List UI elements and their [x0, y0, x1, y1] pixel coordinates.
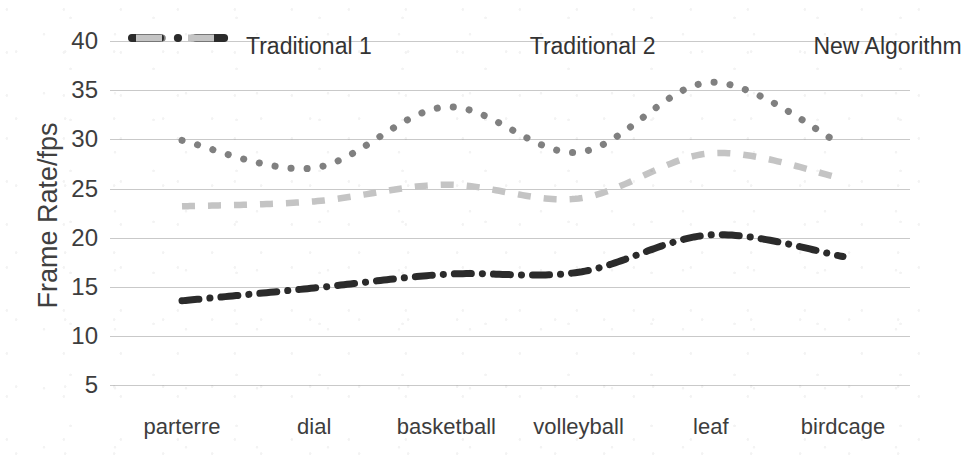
y-tick-10: 10 [36, 324, 98, 348]
series-line-new-algorithm [182, 153, 843, 206]
x-tick-volleyball: volleyball [533, 414, 624, 440]
y-tick-35: 35 [36, 78, 98, 102]
chart-legend: Traditional 1Traditional 2New Algorithm [130, 33, 965, 60]
legend-label: Traditional 2 [530, 33, 656, 60]
x-tick-dial: dial [297, 414, 331, 440]
y-axis-tick-labels: 403530252015105 [36, 0, 98, 469]
x-axis-tick-labels: parterredialbasketballvolleyballleafbird… [110, 414, 910, 454]
dotted-swatch [130, 43, 234, 50]
legend-item-new-algorithm: New Algorithm [697, 33, 965, 60]
y-tick-40: 40 [36, 29, 98, 53]
x-tick-parterre: parterre [143, 414, 220, 440]
dashed-swatch [697, 43, 801, 50]
series-line-traditional-2 [182, 235, 843, 301]
legend-label: Traditional 1 [246, 33, 372, 60]
y-tick-30: 30 [36, 127, 98, 151]
dash-dot-swatch [414, 43, 518, 50]
x-tick-leaf: leaf [693, 414, 728, 440]
y-tick-25: 25 [36, 177, 98, 201]
legend-item-traditional-2: Traditional 2 [414, 33, 698, 60]
plot-area [110, 30, 910, 412]
x-tick-basketball: basketball [397, 414, 496, 440]
y-tick-20: 20 [36, 226, 98, 250]
legend-label: New Algorithm [813, 33, 961, 60]
series-layer [110, 30, 910, 412]
y-tick-15: 15 [36, 275, 98, 299]
x-tick-birdcage: birdcage [801, 414, 885, 440]
y-tick-5: 5 [36, 373, 98, 397]
